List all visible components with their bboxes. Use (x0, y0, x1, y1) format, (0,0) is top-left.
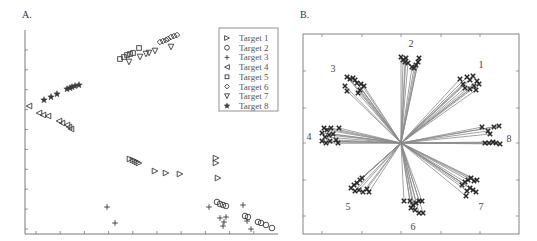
direction-label-8: 8 (507, 133, 512, 144)
radial-vector-chart-b: 12345678 (0, 0, 537, 241)
cluster-target-1 (458, 74, 481, 92)
cluster-target-7 (460, 176, 479, 198)
direction-label-1: 1 (479, 59, 484, 70)
cluster-target-5 (349, 176, 371, 194)
direction-label-3: 3 (331, 63, 336, 74)
cluster-target-2 (399, 55, 421, 70)
cluster-target-4 (320, 126, 341, 145)
direction-label-6: 6 (411, 221, 416, 232)
direction-label-2: 2 (409, 38, 414, 49)
direction-label-5: 5 (346, 201, 351, 212)
cluster-target-6 (402, 199, 425, 215)
direction-label-4: 4 (307, 131, 312, 142)
direction-label-7: 7 (479, 201, 484, 212)
